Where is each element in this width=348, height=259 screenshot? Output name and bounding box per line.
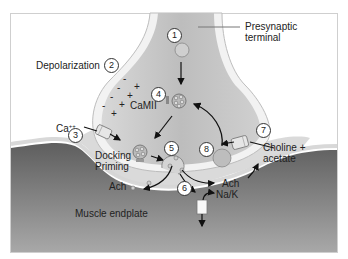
charge-minus: - xyxy=(123,73,126,84)
step-6-marker: 6 xyxy=(177,181,192,196)
ach-molecule xyxy=(131,186,135,190)
presynaptic-line2: terminal xyxy=(245,32,297,43)
step-1-marker: 1 xyxy=(167,28,182,43)
label-muscle-endplate: Muscle endplate xyxy=(75,208,148,219)
charge-minus: - xyxy=(110,91,113,102)
label-docking-priming: Docking Priming xyxy=(95,150,131,172)
calcium-base: Ca xyxy=(56,123,69,134)
charge-plus: + xyxy=(134,81,140,92)
label-choline: Choline + xyxy=(263,142,306,153)
step-8-marker: 8 xyxy=(199,142,214,157)
label-priming: Priming xyxy=(95,161,131,172)
charge-plus: + xyxy=(111,108,117,119)
label-ach-left: Ach xyxy=(109,181,126,192)
label-depolarization: Depolarization xyxy=(36,60,100,71)
presynaptic-line1: Presynaptic xyxy=(245,21,297,32)
ach-receptor-channel xyxy=(197,200,207,214)
neuromuscular-junction-diagram: - - - - + + + + Presynaptic terminal Dep… xyxy=(0,0,348,259)
step-2-marker: 2 xyxy=(104,58,119,73)
recycled-vesicle xyxy=(213,149,231,167)
label-presynaptic-terminal: Presynaptic terminal xyxy=(245,21,297,43)
label-docking: Docking xyxy=(95,150,131,161)
vesicle-1 xyxy=(175,43,189,57)
step-7-marker: 7 xyxy=(256,123,271,138)
step-4-marker: 4 xyxy=(151,87,166,102)
charge-plus: + xyxy=(119,99,125,110)
label-camii: CaMII xyxy=(130,100,157,111)
label-choline-acetate: Choline + acetate xyxy=(263,142,306,164)
step-5-marker: 5 xyxy=(164,141,179,156)
ach-molecule xyxy=(147,181,151,185)
charge-minus: - xyxy=(117,82,120,93)
step-3-marker: 3 xyxy=(68,128,83,143)
label-acetate: acetate xyxy=(263,153,306,164)
label-na-k: Na/K xyxy=(216,189,238,200)
charge-minus: - xyxy=(102,100,105,111)
label-ach-right: Ach xyxy=(222,178,239,189)
